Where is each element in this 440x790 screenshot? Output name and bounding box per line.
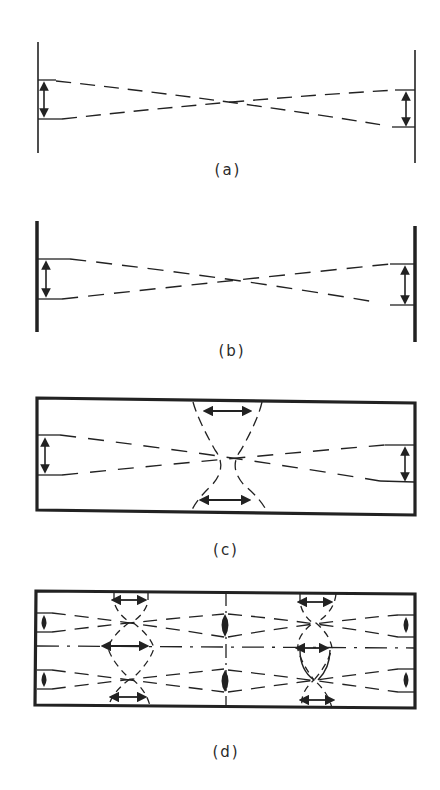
lens-arrow-icon: [222, 670, 229, 692]
panel-c: [37, 398, 415, 515]
panel-c-label: (c): [213, 541, 239, 559]
waist-arc-left: [191, 402, 221, 512]
waveguide-box: [37, 398, 415, 515]
panel-d: [35, 591, 415, 708]
waist-arc-right: [235, 402, 267, 512]
beam-edge-upper: [60, 435, 380, 481]
figure-canvas: [0, 0, 440, 790]
panel-a-label: (a): [215, 161, 242, 179]
waist-arc-right-1: [132, 593, 154, 706]
panel-b-label: (b): [218, 342, 245, 360]
panel-d-label: (d): [212, 743, 239, 761]
beam-edge-lower: [62, 90, 395, 119]
beam-edge-lower: [62, 445, 385, 475]
lens-arrow-icon: [42, 672, 47, 687]
waist-arc-left-1: [108, 593, 130, 702]
lens-arrow-icon: [222, 614, 229, 637]
lens-arrow-icon: [404, 617, 409, 633]
panel-b: [37, 221, 415, 342]
waist-arc-right-2: [314, 594, 336, 708]
lens-arrow-icon: [42, 615, 47, 630]
lens-arrow-icon: [404, 672, 409, 688]
beam-edge-upper: [70, 259, 375, 302]
panel-a: [38, 42, 415, 163]
beam-edge-lower: [62, 264, 390, 299]
